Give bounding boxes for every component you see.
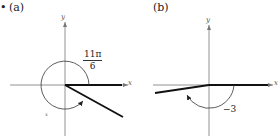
panel-a-angle-label: 11π 6 (83, 50, 102, 71)
figure-drawing (0, 0, 279, 136)
panel-b-angle-label: −3 (223, 105, 236, 114)
angle-denominator: 6 (83, 61, 102, 71)
panel-a-axes (10, 22, 128, 136)
panel-a-stray-mark: x (45, 112, 48, 117)
panel-b-axes (153, 25, 273, 136)
angle-figure: • (a) y x 11π 6 x (b) y x −3 (0, 0, 279, 136)
bullet-marker: • (0, 2, 7, 13)
panel-b-x-axis-label: x (274, 80, 278, 87)
panel-a-terminal-ray (65, 85, 123, 117)
panel-a-label: (a) (9, 2, 24, 13)
panel-a-x-axis-label: x (128, 80, 132, 87)
panel-b-y-axis-label: y (206, 17, 210, 24)
panel-b-label: (b) (153, 2, 169, 13)
angle-numerator: 11π (83, 50, 102, 61)
panel-a-y-axis-label: y (61, 14, 65, 21)
panel-b-terminal-ray (155, 85, 209, 93)
